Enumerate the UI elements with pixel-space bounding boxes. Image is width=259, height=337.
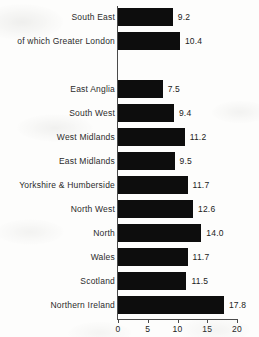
bar-row: South East9.2 — [0, 7, 259, 27]
category-label: South East — [71, 12, 115, 22]
bar-chart: South East9.2of which Greater London10.4… — [0, 0, 259, 337]
bar-row: Wales11.7 — [0, 247, 259, 267]
bar-value-label: 7.5 — [168, 84, 180, 94]
bar-value-label: 9.5 — [180, 156, 192, 166]
bar-row: East Midlands9.5 — [0, 151, 259, 171]
bar-value-label: 14.0 — [206, 228, 223, 238]
bar-row: North14.0 — [0, 223, 259, 243]
category-label: Wales — [91, 252, 115, 262]
plot-area: South East9.2of which Greater London10.4… — [0, 0, 259, 337]
bar-row: West Midlands11.2 — [0, 127, 259, 147]
x-axis-tick-label: 15 — [202, 324, 212, 334]
category-label: Northern Ireland — [50, 300, 115, 310]
category-label: North — [93, 228, 115, 238]
bar-value-label: 11.2 — [190, 132, 207, 142]
bar-value-label: 10.4 — [185, 36, 202, 46]
bar-row: South West9.4 — [0, 103, 259, 123]
bar-row — [0, 55, 259, 75]
bar — [118, 224, 201, 242]
bar-row: Scotland11.5 — [0, 271, 259, 291]
bar-row: North West12.6 — [0, 199, 259, 219]
x-axis-tick-label: 20 — [232, 324, 242, 334]
x-axis-tick — [178, 319, 179, 323]
x-axis-tick — [237, 319, 238, 323]
bar-row: of which Greater London10.4 — [0, 31, 259, 51]
bar-value-label: 9.2 — [178, 12, 190, 22]
bar-value-label: 11.5 — [191, 276, 208, 286]
x-axis-tick-label: 5 — [145, 324, 150, 334]
bar — [118, 152, 175, 170]
bar — [118, 128, 185, 146]
bar — [118, 296, 224, 314]
category-label: East Midlands — [59, 156, 115, 166]
bar — [118, 32, 180, 50]
category-label: Yorkshire & Humberside — [19, 180, 115, 190]
bar-row: Northern Ireland17.8 — [0, 295, 259, 315]
category-label: Scotland — [80, 276, 115, 286]
x-axis-tick-label: 10 — [173, 324, 183, 334]
bar-value-label: 12.6 — [198, 204, 215, 214]
x-axis-tick-label: 0 — [116, 324, 121, 334]
bar-value-label: 11.7 — [193, 180, 210, 190]
x-axis-tick — [118, 319, 119, 323]
bar-value-label: 17.8 — [229, 300, 246, 310]
x-axis-tick — [148, 319, 149, 323]
bar — [118, 272, 186, 290]
bar — [118, 248, 188, 266]
category-label: of which Greater London — [17, 36, 115, 46]
bar-value-label: 11.7 — [193, 252, 210, 262]
bar — [118, 80, 163, 98]
bar-row: East Anglia7.5 — [0, 79, 259, 99]
bar — [118, 176, 188, 194]
category-label: East Anglia — [70, 84, 115, 94]
bar-value-label: 9.4 — [179, 108, 191, 118]
category-label: West Midlands — [57, 132, 115, 142]
category-label: South West — [69, 108, 115, 118]
x-axis-tick — [207, 319, 208, 323]
category-label: North West — [71, 204, 115, 214]
bar — [118, 8, 173, 26]
bar-row: Yorkshire & Humberside11.7 — [0, 175, 259, 195]
bar — [118, 104, 174, 122]
bar — [118, 200, 193, 218]
